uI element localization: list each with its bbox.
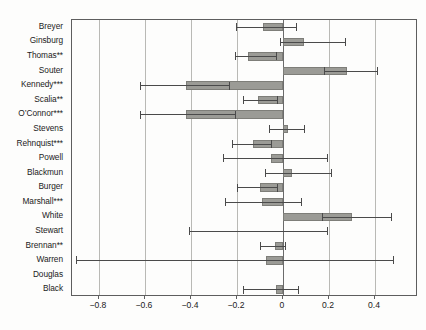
x-axis-tick — [282, 296, 283, 299]
error-bar-line — [76, 260, 393, 261]
x-axis-tick — [236, 296, 237, 299]
horizontal-bar-chart: BreyerGinsburgThomas**SouterKennedy***Sc… — [0, 0, 426, 330]
error-bar-cap-high — [271, 140, 272, 148]
category-label: Souter — [39, 66, 63, 74]
category-label: Rehnquist*** — [17, 139, 63, 147]
category-label: Stevens — [33, 124, 63, 132]
x-axis-tick-label: 0 — [280, 300, 285, 310]
chart-row — [72, 253, 416, 268]
chart-row — [72, 166, 416, 181]
x-axis: −0.8−0.6−0.4−0.200.20.4 — [71, 296, 417, 316]
category-label: Warren — [36, 255, 63, 263]
error-bar-line — [237, 187, 277, 188]
category-label: White — [42, 211, 63, 219]
error-bar-line — [260, 246, 285, 247]
error-bar-cap-high — [277, 184, 278, 192]
error-bar-cap-low — [223, 154, 224, 162]
error-bar-cap-low — [235, 52, 236, 60]
error-bar-line — [324, 71, 377, 72]
chart-row — [72, 107, 416, 122]
chart-row — [72, 282, 416, 297]
error-bar-line — [236, 27, 296, 28]
error-bar-cap-low — [260, 242, 261, 250]
x-axis-tick — [98, 296, 99, 299]
category-label: Stewart — [35, 226, 63, 234]
error-bar-cap-high — [304, 125, 305, 133]
error-bar-cap-high — [391, 213, 392, 221]
error-bar-line — [265, 173, 332, 174]
error-bar-cap-high — [277, 96, 278, 104]
x-axis-tick-label: −0.2 — [227, 300, 244, 310]
chart-row — [72, 35, 416, 50]
error-bar-cap-low — [265, 169, 266, 177]
chart-row — [72, 268, 416, 283]
error-bar-cap-low — [322, 213, 323, 221]
error-bar-cap-low — [324, 67, 325, 75]
error-bar-cap-low — [189, 227, 190, 235]
error-bar-cap-low — [280, 38, 281, 46]
x-axis-tick-label: −0.8 — [89, 300, 106, 310]
error-bar-cap-low — [140, 111, 141, 119]
error-bar-cap-high — [276, 52, 277, 60]
chart-row — [72, 122, 416, 137]
error-bar-line — [189, 231, 327, 232]
category-label: Douglas — [33, 270, 63, 278]
plot-area — [71, 19, 417, 296]
error-bar-cap-high — [296, 23, 297, 31]
error-bar-cap-low — [76, 256, 77, 264]
error-bar-line — [269, 129, 304, 130]
category-label: Black — [43, 284, 63, 292]
error-bar-cap-low — [236, 23, 237, 31]
error-bar-cap-high — [285, 242, 286, 250]
category-label: Thomas** — [27, 51, 63, 59]
error-bar-cap-low — [232, 140, 233, 148]
chart-row — [72, 137, 416, 152]
chart-row — [72, 64, 416, 79]
category-label: Breyer — [39, 22, 63, 30]
error-bar-cap-high — [377, 67, 378, 75]
category-label: Kennedy*** — [21, 80, 63, 88]
error-bar-cap-high — [327, 227, 328, 235]
category-label: Powell — [39, 153, 63, 161]
category-label: Blackmun — [27, 168, 63, 176]
error-bar-cap-low — [140, 82, 141, 90]
error-bar-cap-low — [237, 184, 238, 192]
chart-row — [72, 180, 416, 195]
error-bar-cap-high — [301, 198, 302, 206]
x-axis-tick — [328, 296, 329, 299]
chart-row — [72, 49, 416, 64]
error-bar-cap-high — [345, 38, 346, 46]
category-label: Marshall*** — [23, 197, 64, 205]
error-bar-line — [243, 289, 298, 290]
category-label: Brennan** — [26, 241, 63, 249]
error-bar-line — [280, 42, 346, 43]
x-axis-tick-label: 0.4 — [368, 300, 380, 310]
category-label: O’Connor*** — [18, 109, 63, 117]
category-axis-labels: BreyerGinsburgThomas**SouterKennedy***Sc… — [0, 19, 67, 296]
chart-row — [72, 195, 416, 210]
error-bar-line — [322, 217, 391, 218]
error-bar-cap-high — [235, 111, 236, 119]
chart-row — [72, 20, 416, 35]
category-label: Ginsburg — [30, 36, 63, 44]
error-bar-line — [223, 158, 327, 159]
x-axis-tick-label: −0.6 — [135, 300, 152, 310]
x-axis-tick-label: 0.2 — [322, 300, 334, 310]
chart-row — [72, 239, 416, 254]
error-bar-line — [225, 202, 301, 203]
error-bar-line — [140, 85, 229, 86]
error-bar-line — [232, 144, 271, 145]
chart-row — [72, 224, 416, 239]
category-label: Scalia** — [34, 95, 63, 103]
chart-row — [72, 93, 416, 108]
error-bar-line — [140, 114, 234, 115]
x-axis-tick — [374, 296, 375, 299]
error-bar-cap-low — [243, 286, 244, 294]
error-bar-cap-high — [393, 256, 394, 264]
x-axis-tick-label: −0.4 — [181, 300, 198, 310]
error-bar-line — [243, 100, 278, 101]
error-bar-cap-low — [269, 125, 270, 133]
x-axis-tick — [144, 296, 145, 299]
chart-row — [72, 78, 416, 93]
error-bar-cap-high — [298, 286, 299, 294]
